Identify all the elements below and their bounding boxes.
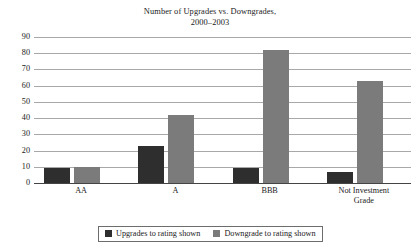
bars-layer (34, 37, 411, 184)
chart-title-line2: 2000–2003 (0, 17, 420, 28)
bar-group (223, 37, 317, 183)
bar (327, 172, 353, 183)
legend-swatch-icon (105, 230, 112, 237)
bar-group (317, 37, 411, 183)
x-category-label-line: BBB (261, 186, 277, 195)
y-tick-label: 60 (0, 82, 30, 90)
y-tick-label: 30 (0, 130, 30, 138)
y-tick-label: 40 (0, 114, 30, 122)
legend-item[interactable]: Upgrades to rating shown (105, 229, 200, 238)
bar (168, 115, 194, 183)
x-category-label-line: Grade (317, 196, 411, 206)
bar (263, 50, 289, 183)
bar-chart: Number of Upgrades vs. Downgrades, 2000–… (0, 0, 420, 252)
legend-label: Upgrades to rating shown (116, 229, 200, 238)
bar-group (34, 37, 128, 183)
y-tick-label: 0 (0, 179, 30, 187)
x-category-label: AA (34, 186, 128, 196)
chart-title: Number of Upgrades vs. Downgrades, 2000–… (0, 6, 420, 28)
plot-area (34, 37, 411, 184)
y-tick-label: 10 (0, 163, 30, 171)
x-category-label: A (128, 186, 222, 196)
bar-group (128, 37, 222, 183)
bar (138, 146, 164, 183)
chart-legend: Upgrades to rating shownDowngrade to rat… (98, 226, 323, 242)
y-tick-label: 80 (0, 49, 30, 57)
x-axis-line (34, 183, 411, 184)
y-axis-tick-labels: 9080706050403020100 (0, 37, 30, 184)
x-category-label: Not InvestmentGrade (317, 186, 411, 206)
legend-label: Downgrade to rating shown (224, 229, 315, 238)
y-tick-label: 70 (0, 65, 30, 73)
x-axis-category-labels: AAABBBNot InvestmentGrade (34, 186, 411, 212)
bar (357, 81, 383, 183)
bar (74, 167, 100, 183)
x-category-label: BBB (223, 186, 317, 196)
x-category-label-line: AA (75, 186, 87, 195)
y-tick-label: 90 (0, 33, 30, 41)
legend-swatch-icon (213, 230, 220, 237)
y-tick-label: 50 (0, 98, 30, 106)
x-category-label-line: A (172, 186, 178, 195)
bar (233, 168, 259, 183)
chart-title-line1: Number of Upgrades vs. Downgrades, (144, 7, 276, 16)
x-category-label-line: Not Investment (339, 186, 390, 195)
legend-item[interactable]: Downgrade to rating shown (213, 229, 315, 238)
bar (44, 168, 70, 183)
y-tick-label: 20 (0, 146, 30, 154)
